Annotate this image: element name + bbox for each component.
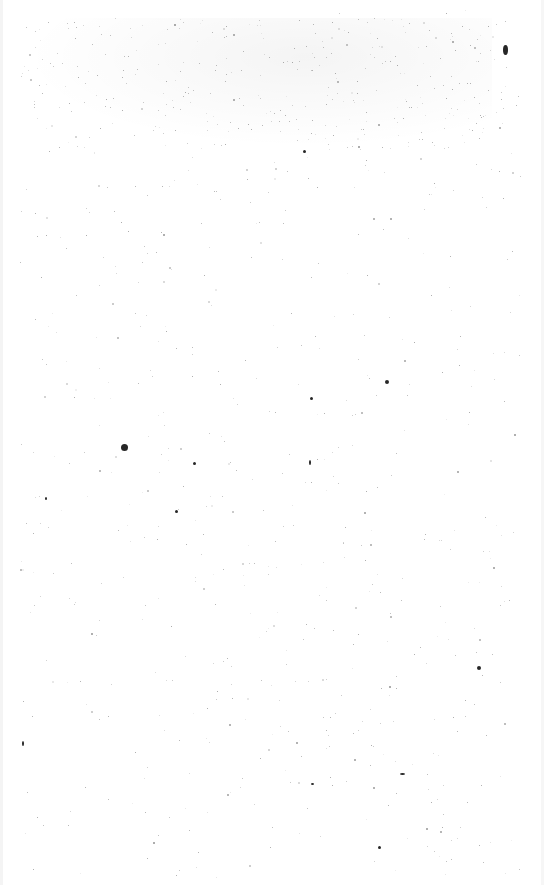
noise-speck — [449, 287, 450, 288]
noise-speck — [280, 131, 281, 132]
noise-speck — [452, 89, 453, 90]
noise-speck — [243, 575, 244, 576]
noise-speck — [26, 27, 27, 28]
noise-speck — [501, 92, 502, 93]
noise-speck — [46, 364, 47, 365]
noise-speck — [483, 862, 484, 863]
noise-speck — [65, 86, 66, 87]
noise-speck — [195, 520, 196, 521]
noise-speck — [263, 510, 264, 511]
noise-speck — [319, 595, 320, 596]
noise-speck — [69, 463, 70, 464]
ink-mark — [310, 397, 313, 400]
noise-speck — [147, 253, 148, 254]
noise-speck — [203, 588, 205, 590]
noise-speck — [395, 56, 396, 57]
noise-speck — [99, 470, 101, 472]
noise-speck — [78, 77, 79, 78]
noise-speck — [289, 454, 290, 455]
noise-speck — [380, 592, 381, 593]
noise-speck — [353, 733, 354, 734]
noise-speck — [272, 827, 273, 828]
noise-speck — [490, 842, 491, 843]
noise-speck — [312, 70, 313, 71]
noise-speck — [493, 353, 494, 354]
noise-speck — [156, 252, 157, 253]
noise-speck — [391, 475, 392, 476]
noise-speck — [162, 186, 163, 187]
noise-speck — [113, 98, 114, 99]
noise-speck — [502, 123, 503, 124]
noise-speck — [236, 470, 237, 471]
noise-speck — [423, 253, 424, 254]
noise-speck — [230, 792, 231, 793]
noise-speck — [178, 509, 179, 510]
noise-speck — [486, 735, 487, 736]
noise-speck — [224, 441, 225, 442]
noise-speck — [373, 787, 375, 789]
noise-speck — [75, 389, 77, 391]
noise-speck — [354, 759, 356, 761]
noise-speck — [138, 383, 139, 384]
noise-speck — [189, 830, 190, 831]
noise-speck — [431, 295, 432, 296]
noise-speck — [158, 415, 159, 416]
noise-speck — [457, 731, 458, 732]
noise-speck — [322, 679, 324, 681]
noise-speck — [366, 112, 367, 113]
noise-speck — [217, 691, 218, 692]
noise-speck — [489, 551, 490, 552]
noise-speck — [343, 542, 344, 543]
noise-speck — [358, 19, 359, 20]
noise-speck — [214, 144, 215, 145]
noise-speck — [249, 563, 250, 564]
noise-speck — [221, 436, 222, 437]
noise-speck — [505, 21, 506, 22]
noise-speck — [134, 135, 135, 136]
noise-speck — [437, 799, 438, 800]
noise-speck — [505, 873, 506, 874]
noise-speck — [372, 584, 373, 585]
noise-speck — [222, 496, 223, 497]
noise-speck — [271, 685, 272, 686]
noise-speck — [382, 147, 383, 148]
noise-speck — [482, 675, 483, 676]
noise-speck — [157, 539, 158, 540]
noise-speck — [282, 259, 283, 260]
noise-speck — [145, 605, 146, 606]
noise-speck — [470, 83, 471, 84]
noise-speck — [121, 222, 122, 223]
noise-speck — [233, 34, 235, 36]
noise-speck — [457, 838, 458, 839]
noise-speck — [33, 533, 34, 534]
noise-speck — [168, 460, 169, 461]
noise-speck — [317, 459, 318, 460]
noise-speck — [512, 172, 514, 174]
noise-speck — [403, 26, 404, 27]
noise-speck — [96, 337, 97, 338]
noise-speck — [440, 606, 441, 607]
noise-speck — [349, 119, 350, 120]
noise-speck — [451, 840, 452, 841]
noise-speck — [483, 551, 484, 552]
noise-speck — [291, 313, 292, 314]
noise-speck — [142, 619, 143, 620]
noise-speck — [422, 103, 423, 104]
noise-speck — [217, 124, 218, 125]
noise-speck — [457, 109, 458, 110]
noise-speck — [323, 47, 324, 48]
noise-speck — [259, 222, 260, 223]
noise-speck — [37, 236, 38, 237]
noise-speck — [519, 295, 520, 296]
noise-speck — [21, 211, 22, 212]
noise-speck — [490, 460, 492, 462]
noise-speck — [390, 218, 392, 220]
noise-speck — [448, 147, 449, 148]
noise-speck — [180, 448, 182, 450]
noise-speck — [270, 847, 271, 848]
noise-speck — [501, 535, 502, 536]
noise-speck — [385, 61, 386, 62]
noise-speck — [204, 275, 205, 276]
noise-speck — [35, 319, 36, 320]
noise-speck — [26, 523, 27, 524]
